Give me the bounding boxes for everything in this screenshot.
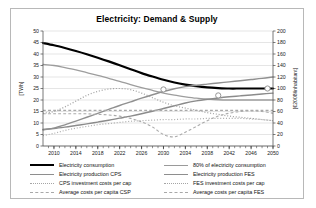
svg-text:100: 100 — [277, 85, 286, 91]
svg-text:5: 5 — [36, 131, 39, 137]
legend-item[interactable]: Electricity consumption — [29, 161, 161, 170]
series-line — [43, 64, 273, 100]
svg-text:20: 20 — [33, 97, 39, 103]
svg-text:2014: 2014 — [70, 150, 82, 156]
svg-text:2026: 2026 — [136, 150, 148, 156]
x-axis-ticks: 2010201420182022202620302034203820422046… — [48, 146, 279, 156]
y2-axis-ticks: 020406080100120140160180200 — [273, 28, 286, 149]
svg-text:2010: 2010 — [48, 150, 60, 156]
svg-text:45: 45 — [33, 39, 39, 45]
legend-swatch-icon — [163, 170, 189, 179]
y-axis-ticks: 05101520253035404550 — [33, 28, 43, 149]
chart-legend: Electricity consumptionElectricity produ… — [29, 161, 293, 197]
legend-item[interactable]: Average costs per capita FES — [163, 188, 295, 197]
legend-item-label: Average costs per capita CSP — [59, 188, 131, 197]
svg-text:0: 0 — [36, 143, 39, 149]
legend-item-label: 80% of electricity consumption — [193, 161, 266, 170]
legend-swatch-icon — [163, 179, 189, 188]
svg-text:180: 180 — [277, 39, 286, 45]
svg-text:2046: 2046 — [245, 150, 257, 156]
legend-item[interactable]: Average costs per capita CSP — [29, 188, 161, 197]
legend-item-label: Average costs per capita FES — [193, 188, 264, 197]
svg-text:35: 35 — [33, 62, 39, 68]
svg-text:50: 50 — [33, 28, 39, 34]
svg-text:30: 30 — [33, 74, 39, 80]
svg-text:2030: 2030 — [158, 150, 170, 156]
y2-axis-label: [€2008/inhabitant] — [292, 67, 298, 109]
legend-item-label: FES investment costs per cap — [193, 179, 265, 188]
legend-item[interactable]: 80% of electricity consumption — [163, 161, 295, 170]
svg-text:15: 15 — [33, 108, 39, 114]
legend-swatch-icon — [163, 188, 189, 197]
svg-text:140: 140 — [277, 62, 286, 68]
legend-item-label: Electricity consumption — [59, 161, 114, 170]
legend-swatch-icon — [29, 161, 55, 170]
legend-item-label: Electricity production FES — [193, 170, 255, 179]
legend-item-label: Electricity production CPS — [59, 170, 121, 179]
chart-card: Electricity: Demand & Supply 05101520253… — [10, 8, 304, 199]
svg-text:200: 200 — [277, 28, 286, 34]
legend-item-label: CPS investment costs per cap — [59, 179, 131, 188]
legend-item[interactable]: Electricity production CPS — [29, 170, 161, 179]
svg-text:2018: 2018 — [92, 150, 104, 156]
svg-text:120: 120 — [277, 74, 286, 80]
svg-text:40: 40 — [277, 120, 283, 126]
legend-swatch-icon — [29, 170, 55, 179]
svg-text:2022: 2022 — [114, 150, 126, 156]
legend-item[interactable]: Electricity production FES — [163, 170, 295, 179]
series-marker — [216, 93, 221, 98]
svg-text:2034: 2034 — [180, 150, 192, 156]
series-marker — [161, 87, 166, 92]
legend-item[interactable]: FES investment costs per cap — [163, 179, 295, 188]
svg-text:25: 25 — [33, 85, 39, 91]
svg-text:0: 0 — [277, 143, 280, 149]
svg-text:60: 60 — [277, 108, 283, 114]
svg-text:20: 20 — [277, 131, 283, 137]
legend-swatch-icon — [29, 188, 55, 197]
series-marker — [265, 86, 270, 91]
svg-text:2050: 2050 — [267, 150, 279, 156]
legend-column-left: Electricity consumptionElectricity produ… — [29, 161, 161, 197]
svg-text:2038: 2038 — [202, 150, 214, 156]
svg-text:40: 40 — [33, 51, 39, 57]
svg-text:2042: 2042 — [223, 150, 235, 156]
series-line — [43, 111, 273, 137]
legend-item[interactable]: CPS investment costs per cap — [29, 179, 161, 188]
svg-text:80: 80 — [277, 97, 283, 103]
svg-text:160: 160 — [277, 51, 286, 57]
y-axis-label: [TWh] — [18, 81, 24, 95]
series-line — [43, 77, 273, 130]
legend-swatch-icon — [29, 179, 55, 188]
legend-swatch-icon — [163, 161, 189, 170]
legend-column-right: 80% of electricity consumptionElectricit… — [163, 161, 295, 197]
svg-text:10: 10 — [33, 120, 39, 126]
